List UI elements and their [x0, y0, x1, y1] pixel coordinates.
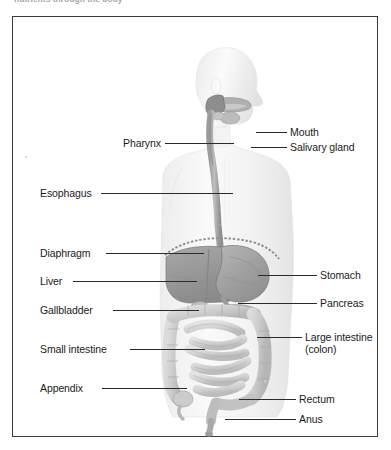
label-diaphragm-text: Diaphragm	[40, 247, 90, 259]
leader-line-mouth	[256, 132, 287, 133]
leader-line-large-intestine	[257, 337, 302, 338]
label-small-intestine: Small intestine	[40, 344, 107, 356]
label-large-intestine-text: Large intestine	[305, 331, 372, 343]
leader-line-diaphragm	[106, 253, 204, 254]
leader-line-appendix	[102, 388, 187, 389]
leader-line-salivary-gland	[251, 147, 287, 148]
figure-frame: Pharynx Esophagus Diaphragm Liver Gallbl…	[12, 16, 378, 437]
label-liver: Liver	[40, 276, 62, 288]
label-salivary-gland-text: Salivary gland	[290, 141, 355, 153]
label-mouth-text: Mouth	[290, 126, 319, 138]
leader-line-pancreas	[238, 303, 317, 304]
cropped-caption-strip: nutrients through the body	[14, 0, 244, 9]
label-anus: Anus	[299, 414, 323, 426]
digestive-system-illustration	[13, 17, 379, 438]
label-salivary-gland: Salivary gland	[290, 142, 355, 154]
cropped-caption-text: nutrients through the body	[14, 0, 123, 4]
label-stomach-text: Stomach	[320, 269, 361, 281]
leader-line-pharyn x	[165, 143, 234, 144]
label-large-intestine: Large intestine (colon)	[305, 332, 372, 355]
scan-speck	[25, 156, 27, 158]
label-pharynx-text: Pharynx	[123, 137, 161, 149]
label-stomach: Stomach	[320, 270, 361, 282]
label-pharynx: Pharynx	[123, 138, 161, 150]
label-appendix-text: Appendix	[40, 382, 83, 394]
label-gallbladder-text: Gallbladder	[40, 304, 93, 316]
label-mouth: Mouth	[290, 127, 319, 139]
label-small-intestine-text: Small intestine	[40, 343, 107, 355]
label-esophagus-text: Esophagus	[40, 187, 92, 199]
leader-line-anus	[225, 419, 296, 420]
label-diaphragm: Diaphragm	[40, 248, 90, 260]
leader-line-stomach	[258, 275, 317, 276]
leader-line-liver	[73, 281, 197, 282]
label-appendix: Appendix	[40, 383, 83, 395]
label-pancreas-text: Pancreas	[320, 297, 364, 309]
label-esophagus: Esophagus	[40, 188, 92, 200]
label-rectum: Rectum	[299, 394, 335, 406]
leader-line-gallbladder	[113, 310, 199, 311]
leader-line-esophagus	[101, 193, 233, 194]
label-liver-text: Liver	[40, 275, 62, 287]
leader-line-rectum	[239, 399, 296, 400]
scan-speck	[264, 380, 266, 382]
label-rectum-text: Rectum	[299, 393, 335, 405]
label-gallbladder: Gallbladder	[40, 305, 93, 317]
leader-line-small-intestine	[130, 349, 205, 350]
label-pancreas: Pancreas	[320, 298, 364, 310]
label-anus-text: Anus	[299, 413, 323, 425]
label-large-intestine-subtext: (colon)	[305, 343, 336, 355]
